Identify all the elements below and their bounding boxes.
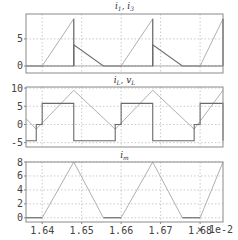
plot-frame	[26, 14, 223, 73]
grid	[26, 87, 223, 147]
y-tick-label: 0	[17, 60, 23, 71]
y-tick-label: 2	[17, 198, 23, 209]
grid	[26, 14, 223, 73]
x-multiplier-label: × 1e-2	[197, 224, 233, 235]
y-tick-label: 4	[17, 184, 23, 195]
series-iL	[26, 90, 223, 129]
y-tick-label: 8	[17, 157, 23, 168]
figure: 05i1, i3-50510iL, vL02468im 1.641.651.66…	[0, 0, 238, 240]
series-i3	[26, 45, 223, 66]
y-tick-label: 0	[17, 212, 23, 223]
plot-iL-vL: -50510iL, vL	[11, 75, 223, 148]
plot-title: iL, vL	[114, 75, 136, 86]
plot-i1-i3: 05i1, i3	[17, 1, 223, 73]
y-tick-label: 5	[17, 101, 23, 112]
x-tick-label: 1.67	[149, 225, 173, 236]
x-axis: 1.641.651.661.671.68× 1e-2	[30, 222, 233, 236]
y-tick-label: -5	[11, 137, 23, 148]
x-tick-label: 1.66	[109, 225, 133, 236]
x-tick-label: 1.65	[70, 225, 94, 236]
y-tick-label: 6	[17, 170, 23, 181]
series-i1	[26, 19, 223, 66]
y-tick-label: 0	[17, 119, 23, 130]
plot-im: 02468im	[17, 150, 223, 223]
plot-title: im	[120, 150, 129, 161]
plot-frame	[26, 87, 223, 147]
grid	[26, 162, 223, 222]
y-tick-label: 10	[11, 83, 23, 94]
plot-title: i1, i3	[115, 1, 134, 12]
x-tick-label: 1.64	[30, 225, 54, 236]
plot-frame	[26, 162, 223, 222]
y-tick-label: 5	[17, 33, 23, 44]
